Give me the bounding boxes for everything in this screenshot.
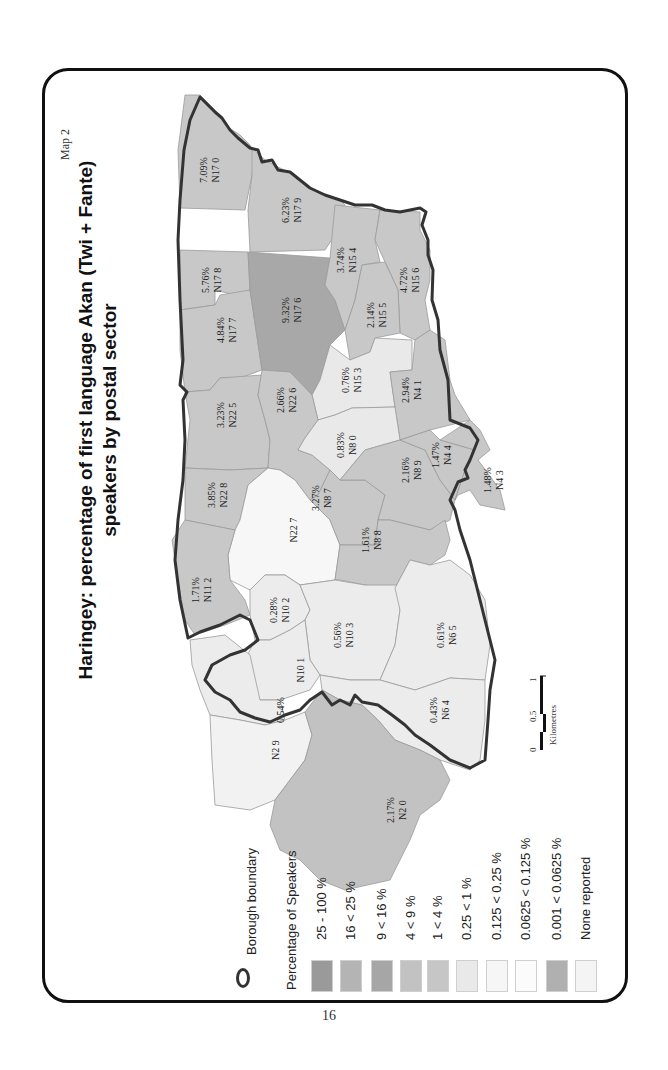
region-label: 2.94%N4 1 (400, 360, 424, 420)
region-label: N2 9 (270, 720, 282, 780)
legend-swatch-25-100 (311, 960, 333, 992)
legend-heading: Percentage of Speakers (284, 851, 299, 990)
scale-tick-0-5: 0.5 (528, 711, 538, 722)
region-label: 1.48%N4 3 (482, 450, 506, 510)
legend-swatch-none (575, 960, 597, 992)
region-label: 2.66%N22 6 (275, 370, 299, 430)
legend-swatch-0-125-0-25 (486, 960, 508, 992)
legend-swatch-0-25-1 (456, 960, 478, 992)
page-number: 16 (322, 1008, 336, 1024)
region-label: 2.17%N2 0 (385, 780, 409, 840)
region-label: 2.14%N15 5 (365, 285, 389, 345)
legend-swatch-4-9 (400, 960, 422, 992)
region-label: 3.23%N22 5 (215, 385, 239, 445)
region-label: 9.32%N17 6 (280, 280, 304, 340)
legend-swatch-0-0625-0-125 (515, 960, 537, 992)
legend-label: 4 < 9 % (403, 896, 418, 940)
legend-swatch-16-25 (340, 960, 362, 992)
region-label: 3.27%N8 7 (310, 468, 334, 528)
boundary-symbol (236, 968, 250, 988)
map-title: Haringey: percentage of first language A… (74, 70, 122, 770)
legend-label: None reported (578, 857, 593, 940)
legend-label: 1 < 4 % (430, 896, 445, 940)
region-label: 4.72%N15 6 (398, 250, 422, 310)
legend-boundary-label: Borough boundary (244, 848, 259, 955)
region-label: 0.28%N10 2 (268, 580, 292, 640)
legend-label: 0.001 < 0.0625 % (549, 838, 564, 940)
region-label: 2.16%N8 9 (400, 440, 424, 500)
legend-label: 0.25 < 1 % (459, 877, 474, 940)
region-label: 0.61%N6 5 (435, 605, 459, 665)
region-label: N22 7 (288, 500, 300, 560)
region-label: 0.83%N8 0 (335, 415, 359, 475)
scale-tick-0: 0 (528, 748, 538, 753)
region-label: 6.23%N17 9 (280, 180, 304, 240)
legend-label: 16 < 25 % (343, 881, 358, 940)
title-line-2: speakers by postal sector (98, 70, 122, 770)
region-label: 7.09%N17 0 (198, 140, 222, 200)
legend-label: 25 - 100 % (314, 877, 329, 940)
region-label: 0.56%N10 3 (332, 605, 356, 665)
region-label: N10 1 (295, 640, 307, 700)
legend-swatch-1-4 (427, 960, 449, 992)
scale-bar (540, 676, 546, 750)
legend-label: 0.125 < 0.25 % (489, 852, 504, 940)
region-label: 4.84%N17 7 (215, 300, 239, 360)
map-number: Map 2 (58, 129, 73, 160)
legend-label: 9 < 16 % (374, 888, 389, 940)
legend-label: 0.0625 < 0.125 % (518, 838, 533, 940)
region-label: 1.71%N11 2 (190, 560, 214, 620)
legend-swatch-0-001-0-0625 (546, 960, 568, 992)
region-label: 3.74%N15 4 (335, 230, 359, 290)
region-label: 0.76%N15 3 (340, 350, 364, 410)
region-label: 0.43%N6 4 (428, 680, 452, 740)
region-label: 1.61%N8 8 (360, 510, 384, 570)
legend-swatch-9-16 (371, 960, 393, 992)
title-line-1: Haringey: percentage of first language A… (74, 70, 98, 770)
scale-unit: Kilometres (548, 705, 558, 745)
region-label: 3.85%N22 8 (206, 465, 230, 525)
region-label: 1.47%N4 4 (430, 425, 454, 485)
scale-tick-1: 1 (528, 678, 538, 683)
